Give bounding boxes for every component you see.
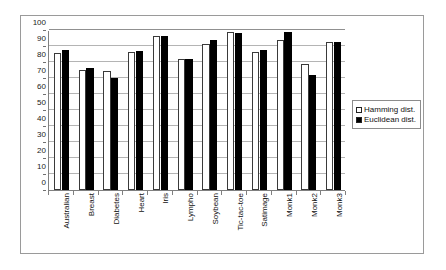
bar-euclidean <box>62 50 69 190</box>
y-tick-label: 80 <box>20 51 46 59</box>
x-tick-label: Monk3 <box>336 193 344 217</box>
y-tick-mark <box>43 94 46 95</box>
bar-hamming <box>227 32 234 190</box>
x-tick-mark <box>147 191 148 195</box>
x-tick-mark <box>221 191 222 195</box>
y-tick-label: 0 <box>20 179 46 187</box>
chart-legend: Hamming dist.Euclidean dist. <box>352 100 421 129</box>
legend-item-label: Euclidean dist. <box>364 115 416 124</box>
legend-item: Hamming dist. <box>356 105 417 114</box>
legend-item-label: Hamming dist. <box>364 105 415 114</box>
x-tick-mark <box>197 191 198 195</box>
x-tick-mark <box>271 191 272 195</box>
x-tick-mark <box>98 191 99 195</box>
x-tick-label: Heart <box>138 193 146 213</box>
filled-square-icon <box>356 117 362 123</box>
bar-hamming <box>54 53 61 190</box>
x-tick-label: Lympho <box>187 193 195 221</box>
y-axis: 0102030405060708090100 <box>18 31 46 191</box>
bar-euclidean <box>284 32 291 190</box>
bar-euclidean <box>260 50 267 190</box>
y-tick-label: 70 <box>20 67 46 75</box>
y-tick-mark <box>43 174 46 175</box>
bar-euclidean <box>136 51 143 190</box>
bar-euclidean <box>185 59 192 190</box>
bar-hamming <box>128 52 135 190</box>
bar-group <box>74 31 99 190</box>
x-tick-label: Iris <box>162 193 170 204</box>
bar-group <box>148 31 173 190</box>
x-tick-mark <box>172 191 173 195</box>
bar-group <box>247 31 272 190</box>
plot-area <box>48 31 345 191</box>
bar-euclidean <box>86 68 93 190</box>
bar-group <box>222 31 247 190</box>
bar-hamming <box>326 42 333 190</box>
y-tick-label: 20 <box>20 147 46 155</box>
x-tick-mark <box>48 191 49 195</box>
x-tick-label: Diabetes <box>113 193 121 225</box>
bar-group <box>123 31 148 190</box>
y-tick-mark <box>43 142 46 143</box>
x-tick-mark <box>320 191 321 195</box>
bar-hamming <box>103 71 110 190</box>
bar-euclidean <box>334 42 341 190</box>
bar-hamming <box>252 52 259 190</box>
bar-hamming <box>178 59 185 190</box>
y-tick-label: 30 <box>20 131 46 139</box>
bar-group <box>321 31 346 190</box>
bar-hamming <box>202 44 209 190</box>
bar-series-container <box>49 31 345 190</box>
y-tick-mark <box>43 30 46 31</box>
x-tick-mark <box>296 191 297 195</box>
bar-euclidean <box>309 75 316 190</box>
x-tick-label: Monk2 <box>311 193 319 217</box>
x-axis: AustralianBreastDiabetesHeartIrisLymphoS… <box>48 193 345 253</box>
y-tick-label: 40 <box>20 115 46 123</box>
x-tick-mark <box>345 191 346 195</box>
gridline <box>49 29 345 30</box>
x-tick-mark <box>73 191 74 195</box>
bar-euclidean <box>161 36 168 190</box>
y-tick-mark <box>43 110 46 111</box>
x-tick-mark <box>122 191 123 195</box>
bar-hamming <box>277 40 284 190</box>
y-tick-mark <box>43 190 46 191</box>
y-tick-label: 50 <box>20 99 46 107</box>
x-tick-label: Australian <box>63 193 71 229</box>
bar-hamming <box>79 70 86 190</box>
bar-group <box>272 31 297 190</box>
bar-group <box>99 31 124 190</box>
bar-hamming <box>153 36 160 190</box>
y-tick-mark <box>43 62 46 63</box>
x-tick-label: Satimage <box>261 193 269 227</box>
hollow-square-icon <box>356 107 362 113</box>
x-tick-label: Monk1 <box>286 193 294 217</box>
y-tick-label: 100 <box>20 19 46 27</box>
bar-euclidean <box>235 33 242 190</box>
x-tick-label: Soybean <box>212 193 220 225</box>
bar-euclidean <box>111 78 118 190</box>
bar-euclidean <box>210 40 217 190</box>
bar-group <box>297 31 322 190</box>
y-tick-mark <box>43 126 46 127</box>
y-tick-label: 60 <box>20 83 46 91</box>
chart-figure: 0102030405060708090100 AustralianBreastD… <box>0 0 446 270</box>
y-tick-label: 10 <box>20 163 46 171</box>
y-tick-mark <box>43 46 46 47</box>
x-tick-label: Tic-tac-toe <box>237 193 245 231</box>
y-tick-mark <box>43 158 46 159</box>
y-tick-label: 90 <box>20 35 46 43</box>
bar-group <box>198 31 223 190</box>
x-tick-label: Breast <box>88 193 96 216</box>
bar-hamming <box>301 64 308 190</box>
bar-group <box>173 31 198 190</box>
legend-item: Euclidean dist. <box>356 115 417 124</box>
bar-group <box>49 31 74 190</box>
y-tick-mark <box>43 78 46 79</box>
x-tick-mark <box>246 191 247 195</box>
